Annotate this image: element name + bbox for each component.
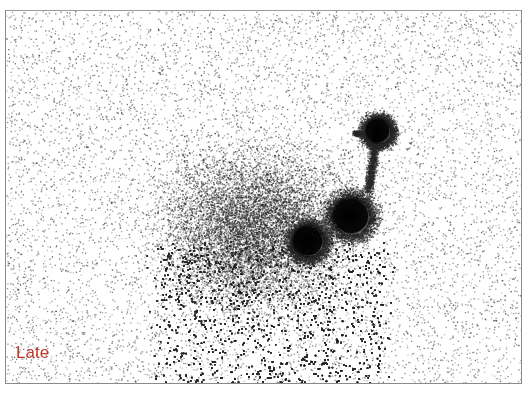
scan-frame: Late — [5, 10, 522, 384]
scintigraphy-image — [6, 11, 521, 383]
phase-label: Late — [16, 343, 49, 363]
